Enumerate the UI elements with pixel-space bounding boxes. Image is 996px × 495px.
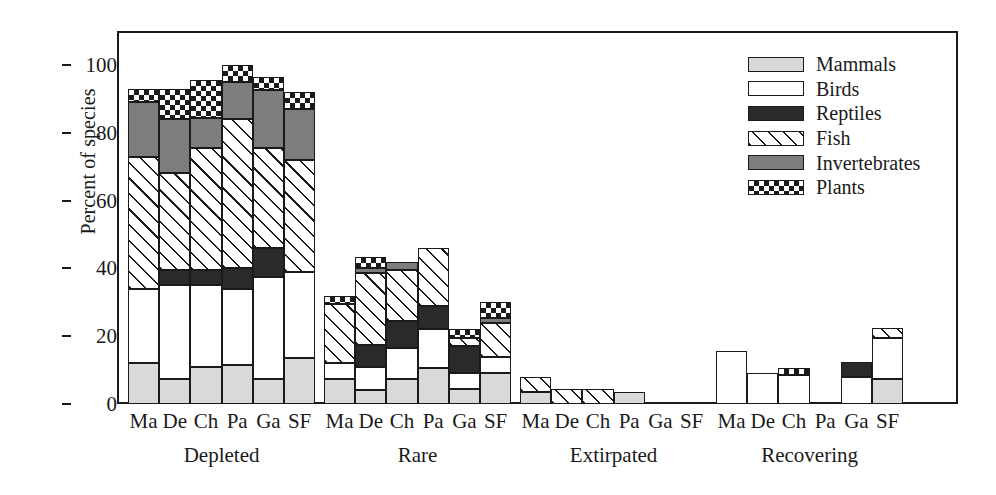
bar-segment-mammals bbox=[355, 390, 386, 404]
bar-stack bbox=[253, 0, 284, 404]
bar-segment-plants bbox=[128, 89, 159, 103]
legend-swatch-plants bbox=[748, 180, 804, 195]
bar-segment-invertebrates bbox=[480, 318, 511, 323]
x-group-label: Recovering bbox=[761, 443, 858, 468]
bar-segment-mammals bbox=[872, 379, 903, 404]
bar-segment-mammals bbox=[520, 392, 551, 404]
bar-segment-invertebrates bbox=[284, 109, 315, 160]
bar-segment-mammals bbox=[418, 368, 449, 404]
bar-segment-birds bbox=[418, 329, 449, 368]
x-tick-label: SF bbox=[288, 409, 311, 434]
x-tick-label: Ch bbox=[782, 409, 807, 434]
bar-segment-birds bbox=[747, 373, 778, 404]
x-group-label: Extirpated bbox=[570, 443, 657, 468]
bar-segment-fish bbox=[480, 323, 511, 357]
x-tick-label: Ma bbox=[326, 409, 354, 434]
x-tick-label: De bbox=[751, 409, 776, 434]
bar-segment-birds bbox=[190, 285, 221, 366]
legend-item: Birds bbox=[748, 77, 920, 102]
x-tick-label: Pa bbox=[227, 409, 248, 434]
bar-segment-invertebrates bbox=[355, 268, 386, 273]
bar-segment-reptiles bbox=[418, 306, 449, 330]
bar-segment-plants bbox=[480, 302, 511, 317]
x-tick-label: SF bbox=[876, 409, 899, 434]
bar-segment-birds bbox=[159, 285, 190, 378]
bar-segment-fish bbox=[386, 270, 417, 321]
legend-item: Invertebrates bbox=[748, 150, 920, 175]
x-tick-label: Ma bbox=[522, 409, 550, 434]
bar-segment-plants bbox=[159, 89, 190, 120]
bar-segment-plants bbox=[222, 65, 253, 82]
bar-segment-fish bbox=[284, 160, 315, 272]
bar-stack bbox=[324, 0, 355, 404]
x-tick-label: SF bbox=[680, 409, 703, 434]
bar-segment-plants bbox=[355, 257, 386, 269]
bar-segment-reptiles bbox=[841, 362, 872, 377]
x-group-label: Rare bbox=[398, 443, 438, 468]
legend-label: Mammals bbox=[816, 54, 896, 74]
bar-segment-fish bbox=[418, 248, 449, 306]
bar-stack bbox=[128, 0, 159, 404]
bar-segment-fish bbox=[355, 273, 386, 344]
bar-stack bbox=[645, 0, 676, 404]
x-tick-label: De bbox=[359, 409, 384, 434]
bar-segment-birds bbox=[222, 289, 253, 365]
x-tick-label: De bbox=[163, 409, 188, 434]
bar-segment-plants bbox=[324, 296, 355, 304]
legend-swatch-mammals bbox=[748, 57, 804, 72]
legend-swatch-birds bbox=[748, 81, 804, 96]
x-tick-label: Ga bbox=[648, 409, 673, 434]
x-tick-label: Ch bbox=[586, 409, 611, 434]
legend-label: Fish bbox=[816, 128, 850, 148]
bar-segment-mammals bbox=[159, 379, 190, 404]
bar-segment-birds bbox=[128, 289, 159, 364]
x-tick-label: Ma bbox=[718, 409, 746, 434]
x-tick-label: Ga bbox=[844, 409, 869, 434]
bar-segment-reptiles bbox=[355, 345, 386, 367]
bar-segment-fish bbox=[253, 148, 284, 248]
bar-segment-birds bbox=[324, 363, 355, 378]
x-tick-label: Pa bbox=[619, 409, 640, 434]
bar-segment-plants bbox=[253, 77, 284, 91]
bar-segment-fish bbox=[222, 119, 253, 268]
bar-segment-birds bbox=[355, 367, 386, 391]
bar-segment-invertebrates bbox=[386, 262, 417, 270]
bar-stack bbox=[418, 0, 449, 404]
bar-stack bbox=[159, 0, 190, 404]
legend-label: Reptiles bbox=[816, 103, 882, 123]
bar-segment-reptiles bbox=[449, 346, 480, 373]
legend-item: Plants bbox=[748, 175, 920, 200]
bar-segment-invertebrates bbox=[253, 90, 284, 148]
x-tick-label: SF bbox=[484, 409, 507, 434]
bar-segment-reptiles bbox=[159, 270, 190, 285]
bar-segment-mammals bbox=[324, 379, 355, 404]
bar-segment-mammals bbox=[614, 392, 645, 404]
bar-stack bbox=[355, 0, 386, 404]
bar-segment-birds bbox=[778, 375, 809, 404]
bar-segment-birds bbox=[253, 277, 284, 379]
legend-swatch-invertebrates bbox=[748, 155, 804, 170]
bar-segment-fish bbox=[449, 338, 480, 346]
bar-stack bbox=[190, 0, 221, 404]
chart-root: Percent of species 020406080100 MaDeChPa… bbox=[0, 0, 996, 495]
bar-segment-reptiles bbox=[222, 268, 253, 288]
legend-item: Reptiles bbox=[748, 101, 920, 126]
legend-label: Invertebrates bbox=[816, 153, 920, 173]
legend-item: Mammals bbox=[748, 52, 920, 77]
bar-segment-plants bbox=[778, 368, 809, 375]
bar-segment-fish bbox=[159, 173, 190, 270]
bar-segment-birds bbox=[386, 348, 417, 379]
x-tick-label: Ch bbox=[194, 409, 219, 434]
bar-segment-invertebrates bbox=[128, 102, 159, 156]
bar-segment-birds bbox=[841, 377, 872, 404]
legend-label: Plants bbox=[816, 177, 865, 197]
x-tick-label: De bbox=[555, 409, 580, 434]
bar-stack bbox=[582, 0, 613, 404]
bar-segment-plants bbox=[190, 80, 221, 117]
bar-segment-mammals bbox=[253, 379, 284, 404]
x-tick-label: Pa bbox=[423, 409, 444, 434]
bar-stack bbox=[449, 0, 480, 404]
bar-segment-fish bbox=[582, 389, 613, 404]
legend-swatch-fish bbox=[748, 131, 804, 146]
bar-segment-reptiles bbox=[190, 270, 221, 285]
